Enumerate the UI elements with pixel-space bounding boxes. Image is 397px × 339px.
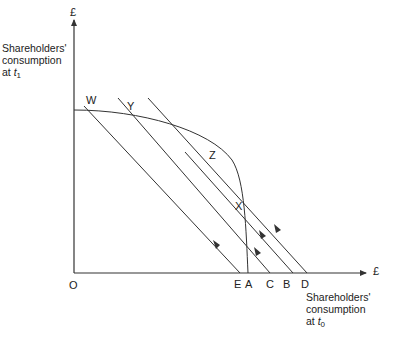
x-axis-title: Shareholders' consumption at t0 xyxy=(306,291,370,331)
x-axis-title-line1: Shareholders' xyxy=(306,291,370,303)
y-axis-title-line2: consumption xyxy=(2,54,66,66)
market-line-C xyxy=(118,98,270,273)
y-axis-title: Shareholders' consumption at t1 xyxy=(2,42,66,82)
market-line-B xyxy=(185,152,293,273)
market-line-D xyxy=(148,98,307,273)
x-axis-title-prefix: at xyxy=(306,315,318,327)
point-label-w: W xyxy=(86,94,96,106)
arrow-D-icon xyxy=(274,224,281,233)
investment-opportunity-curve xyxy=(74,110,248,273)
x-axis-title-sub: 0 xyxy=(321,320,325,329)
point-label-x: X xyxy=(235,200,242,212)
y-axis-title-line1: Shareholders' xyxy=(2,42,66,54)
x-axis-unit: £ xyxy=(373,265,379,277)
y-axis-title-line3: at t1 xyxy=(2,66,66,82)
point-label-y: Y xyxy=(127,100,134,112)
origin-label: O xyxy=(69,279,78,291)
axis-label-b: B xyxy=(283,278,290,290)
y-axis-title-prefix: at xyxy=(2,66,14,78)
arrow-C-icon xyxy=(254,247,261,256)
arrow-B-icon xyxy=(259,230,266,239)
axis-label-d: D xyxy=(301,278,309,290)
point-label-z: Z xyxy=(209,149,216,161)
x-axis-title-line2: consumption xyxy=(306,303,370,315)
x-axis-title-line3: at t0 xyxy=(306,315,370,331)
axis-label-a: A xyxy=(245,278,252,290)
y-axis-unit: £ xyxy=(70,6,76,18)
y-axis-title-sub: 1 xyxy=(17,71,21,80)
axis-label-c: C xyxy=(266,278,274,290)
axis-label-e: E xyxy=(234,278,241,290)
